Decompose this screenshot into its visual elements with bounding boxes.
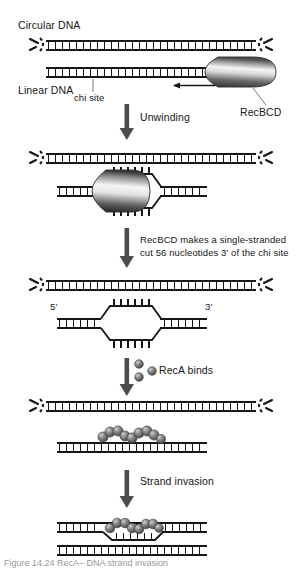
label-linear-dna: Linear DNA — [18, 84, 73, 96]
label-three-prime: 3′ — [205, 301, 212, 312]
broken-end-right-3 — [259, 278, 272, 291]
step-arrow-cut — [120, 228, 134, 268]
figure-caption: Figure 14.24 RecA– DNA strand invasion — [4, 558, 300, 569]
label-chi-site: chi site — [74, 92, 104, 103]
linear-dna-bubble-3 — [57, 299, 207, 349]
label-step-cut-line2: cut 56 nucleotides 3′ of the chi site — [140, 247, 289, 258]
step-3-single-strand-cut — [30, 278, 272, 396]
circular-dna-duplex-2 — [30, 151, 272, 164]
step-4-reca-filament — [30, 399, 272, 508]
step-arrow-unwinding — [120, 104, 134, 140]
invaded-duplex-upper — [57, 518, 207, 540]
broken-end-left-2 — [30, 151, 43, 164]
recbcd-leader — [253, 88, 266, 105]
circular-dna-duplex-1 — [30, 38, 272, 51]
step-arrow-reca — [120, 358, 134, 396]
broken-end-left-1 — [30, 38, 43, 51]
invaded-duplex-lower — [57, 545, 207, 556]
label-step-reca-binds: RecA binds — [159, 364, 213, 376]
label-five-prime: 5′ — [50, 301, 57, 312]
label-step-cut-line1: RecBCD makes a single-stranded — [140, 234, 286, 245]
step-5-strand-invasion — [57, 518, 207, 556]
linear-dna-reca-coated — [57, 426, 207, 453]
recbcd-enzyme-2 — [92, 170, 150, 212]
label-circular-dna: Circular DNA — [18, 19, 80, 31]
circular-dna-duplex-3 — [30, 278, 272, 291]
reca-filament-5 — [105, 518, 163, 534]
broken-end-right-4 — [259, 399, 272, 412]
translocation-arrow-1 — [173, 83, 215, 89]
label-recbcd: RecBCD — [240, 106, 281, 118]
broken-end-right-1 — [259, 38, 272, 51]
step-arrow-strand-invasion — [120, 470, 134, 508]
reca-filament-4 — [98, 426, 166, 444]
recbcd-enzyme-1 — [205, 57, 276, 87]
broken-end-left-3 — [30, 278, 43, 291]
circular-dna-duplex-4 — [30, 399, 272, 412]
broken-end-left-4 — [30, 399, 43, 412]
linear-dna-duplex-1 — [46, 67, 218, 78]
label-step-strand-invasion: Strand invasion — [140, 475, 214, 487]
broken-end-right-2 — [259, 151, 272, 164]
reca-free-spheres — [135, 360, 157, 382]
label-step-unwinding: Unwinding — [140, 111, 190, 123]
